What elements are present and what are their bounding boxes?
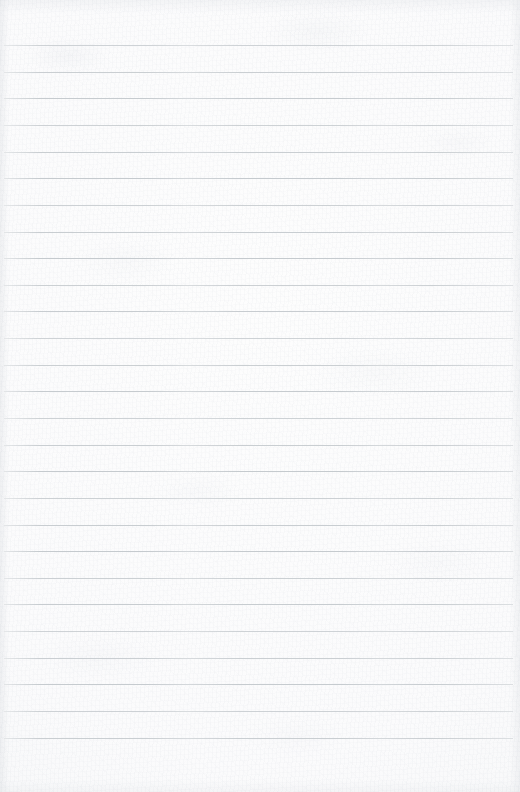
notebook-page (0, 0, 520, 792)
page-writing-area (0, 0, 520, 792)
